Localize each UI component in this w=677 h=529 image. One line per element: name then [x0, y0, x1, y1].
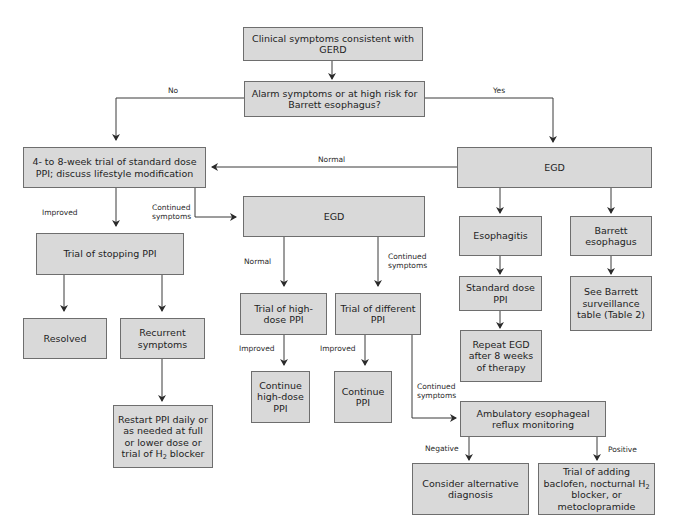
node-repeat-egd: Repeat EGD after 8 weeks of therapy	[460, 330, 542, 382]
node-ambulatory-monitoring: Ambulatory esophageal reflux monitoring	[460, 401, 606, 437]
label-improved-3: Improved	[320, 344, 356, 353]
node-clinical-symptoms: Clinical symptoms consistent with GERD	[243, 27, 423, 61]
node-text-part: Trial of adding baclofen, nocturnal H	[543, 466, 645, 489]
label-yes: Yes	[493, 86, 505, 95]
node-continue-high-dose: Continue high-dose PPI	[251, 371, 310, 423]
node-text: Trial of different PPI	[340, 303, 416, 326]
node-text: Repeat EGD after 8 weeks of therapy	[465, 339, 537, 374]
label-improved-1: Improved	[42, 208, 78, 217]
node-text: Clinical symptoms consistent with GERD	[248, 33, 418, 56]
node-text: EGD	[324, 211, 345, 223]
node-see-barrett-table: See Barrett surveillance table (Table 2)	[570, 276, 652, 331]
node-trial-high-dose: Trial of high-dose PPI	[240, 293, 327, 335]
node-text: Esophagitis	[473, 230, 528, 242]
node-text: Resolved	[44, 333, 87, 345]
node-trial-stopping-ppi: Trial of stopping PPI	[36, 233, 184, 275]
subscript: 2	[645, 483, 649, 491]
node-esophagitis: Esophagitis	[459, 216, 542, 256]
node-text-part: blocker, or metoclopramide	[558, 489, 636, 512]
node-ppi-trial: 4- to 8-week trial of standard dose PPI;…	[23, 147, 206, 188]
node-trial-adding-baclofen: Trial of adding baclofen, nocturnal H2 b…	[538, 463, 655, 515]
node-recurrent-symptoms: Recurrent symptoms	[120, 318, 205, 359]
node-text: Alarm symptoms or at high risk for Barre…	[249, 88, 420, 111]
label-normal-mid: Normal	[244, 257, 271, 266]
node-text: Restart PPI daily or as needed at full o…	[118, 414, 208, 460]
label-no: No	[168, 86, 178, 95]
node-egd-mid: EGD	[243, 196, 425, 237]
node-consider-alternative: Consider alternative diagnosis	[412, 463, 529, 515]
node-resolved: Resolved	[23, 318, 107, 359]
label-improved-2: Improved	[239, 344, 275, 353]
node-text: 4- to 8-week trial of standard dose PPI;…	[28, 156, 201, 179]
node-text: EGD	[544, 162, 565, 174]
node-text: Trial of high-dose PPI	[245, 303, 322, 326]
node-text: Barrett esophagus	[575, 225, 647, 248]
node-text: Consider alternative diagnosis	[417, 478, 524, 501]
node-standard-dose-ppi: Standard dose PPI	[459, 276, 542, 311]
node-text: Recurrent symptoms	[125, 327, 200, 350]
node-barrett-esophagus: Barrett esophagus	[570, 216, 652, 256]
node-text: Continue high-dose PPI	[256, 380, 305, 415]
node-text: See Barrett surveillance table (Table 2)	[575, 286, 647, 321]
node-alarm-symptoms: Alarm symptoms or at high risk for Barre…	[244, 81, 425, 117]
node-text-part: blocker	[167, 448, 205, 459]
label-continued-2: Continued symptoms	[388, 252, 433, 270]
label-continued-3: Continued symptoms	[417, 382, 462, 400]
node-trial-different-ppi: Trial of different PPI	[335, 293, 421, 335]
label-normal-top: Normal	[318, 155, 345, 164]
label-positive: Positive	[608, 445, 637, 454]
node-text: Continue PPI	[339, 386, 387, 409]
node-text: Ambulatory esophageal reflux monitoring	[465, 408, 601, 431]
label-continued-1: Continued symptoms	[152, 203, 192, 221]
label-negative: Negative	[425, 444, 459, 453]
node-text: Trial of adding baclofen, nocturnal H2 b…	[543, 466, 650, 512]
node-text: Trial of stopping PPI	[63, 248, 156, 260]
node-restart-ppi: Restart PPI daily or as needed at full o…	[113, 405, 213, 468]
node-continue-ppi: Continue PPI	[334, 371, 392, 423]
node-egd-top: EGD	[457, 147, 652, 188]
node-text: Standard dose PPI	[464, 282, 537, 305]
